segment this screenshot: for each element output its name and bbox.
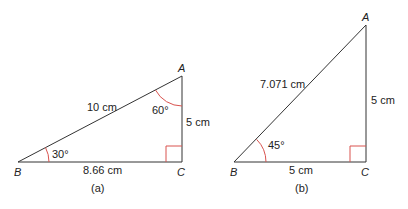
triangle-a: A B C 10 cm 8.66 cm 5 cm 30° 60° (a) [14,62,210,194]
caption-a: (a) [91,182,104,194]
angle-a-label: 60° [152,104,169,116]
vertex-b-label: B [14,166,21,178]
triangle-b-shape [234,25,366,162]
right-angle-mark-b [350,146,366,162]
angle-b-label: 45° [268,139,285,151]
vertex-a-label: A [361,11,369,23]
adjacent-label: 5 cm [289,164,313,176]
triangle-a-shape [18,76,182,162]
vertex-c-label: C [177,166,185,178]
right-angle-mark-a [166,146,182,162]
angle-b-label: 30° [52,148,69,160]
angle-arc-b-b [257,139,266,162]
adjacent-label: 8.66 cm [83,164,122,176]
opposite-label: 5 cm [371,94,395,106]
vertex-c-label: C [361,166,369,178]
caption-b: (b) [295,182,308,194]
angle-arc-b-a [46,148,50,163]
vertex-b-label: B [230,166,237,178]
hypotenuse-label: 7.071 cm [260,78,305,90]
opposite-label: 5 cm [186,116,210,128]
diagram-canvas: A B C 10 cm 8.66 cm 5 cm 30° 60° (a) A B… [0,0,408,209]
triangle-b: A B C 7.071 cm 5 cm 5 cm 45° (b) [230,11,395,194]
vertex-a-label: A [177,62,185,74]
hypotenuse-label: 10 cm [87,101,117,113]
